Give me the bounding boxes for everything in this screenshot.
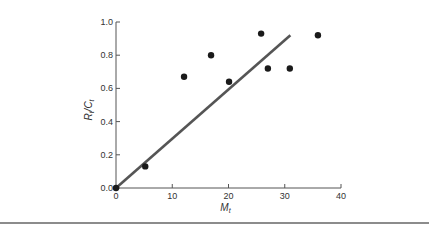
data-point — [113, 185, 119, 191]
y-axis-label: Rt/Ct — [83, 98, 95, 120]
y-ticks: 0.00.20.40.60.81.0 — [100, 17, 120, 193]
data-point — [226, 79, 232, 85]
fit-line — [116, 35, 290, 188]
y-tick-label: 0.0 — [100, 183, 113, 193]
y-tick-label: 0.4 — [100, 117, 113, 127]
x-tick-label: 30 — [280, 191, 290, 201]
y-tick-label: 0.2 — [100, 150, 113, 160]
fit-lines — [116, 35, 290, 188]
data-point — [265, 65, 271, 71]
x-ticks: 010203040 — [113, 184, 346, 201]
x-tick-label: 40 — [336, 191, 346, 201]
data-point — [315, 32, 321, 38]
data-point — [142, 163, 148, 169]
y-tick-label: 0.8 — [100, 50, 113, 60]
data-point — [208, 52, 214, 58]
data-point — [258, 30, 264, 36]
scatter-chart: 0.00.20.40.60.81.0 Rt/Ct 010203040 Mt — [0, 0, 429, 229]
y-axis: 0.00.20.40.60.81.0 Rt/Ct — [83, 17, 120, 193]
y-tick-label: 1.0 — [100, 17, 113, 27]
data-point — [181, 74, 187, 80]
x-tick-label: 20 — [223, 191, 233, 201]
data-points — [113, 30, 321, 191]
x-tick-label: 0 — [113, 191, 118, 201]
y-tick-label: 0.6 — [100, 83, 113, 93]
x-tick-label: 10 — [167, 191, 177, 201]
data-point — [287, 65, 293, 71]
x-axis-label: Mt — [220, 202, 231, 214]
x-axis: 010203040 Mt — [113, 184, 346, 214]
